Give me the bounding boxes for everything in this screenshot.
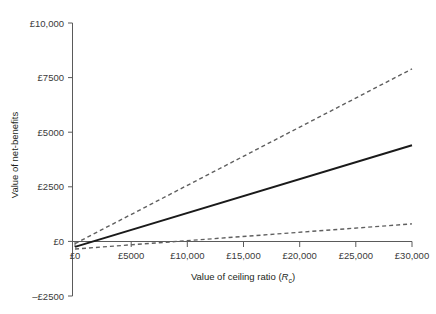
figure-caption-strip [0, 305, 436, 314]
figure-container: £10,000 £7500 £5000 £2500 £0 –£2500 £0 £… [0, 0, 436, 314]
y-tick-label-10000: £10,000 [30, 18, 64, 29]
x-tick-label-30000: £30,000 [395, 250, 429, 261]
x-tick-label-0: £0 [70, 250, 81, 261]
x-tick-label-25000: £25,000 [339, 250, 373, 261]
x-tick-label-10000: £10,000 [170, 250, 204, 261]
x-tick-label-5000: £5000 [118, 250, 144, 261]
series-upper-confidence-limit [75, 69, 412, 244]
x-axis-title-close: ) [292, 271, 295, 282]
x-tick-label-20000: £20,000 [283, 250, 317, 261]
x-axis-ticks [75, 242, 412, 248]
y-axis-title: Value of net-benefits [9, 112, 20, 199]
y-tick-label-0: £0 [53, 236, 64, 247]
x-axis-title: Value of ceiling ratio (Rc) [191, 271, 295, 284]
x-axis-title-main: Value of ceiling ratio ( [191, 271, 282, 282]
series-expected-net-benefit [75, 145, 412, 247]
y-tick-label-neg2500: –£2500 [32, 291, 64, 302]
x-tick-label-15000: £15,000 [226, 250, 260, 261]
y-tick-label-5000: £5000 [38, 127, 64, 138]
y-tick-label-7500: £7500 [38, 72, 64, 83]
y-tick-label-2500: £2500 [38, 181, 64, 192]
net-benefit-chart: £10,000 £7500 £5000 £2500 £0 –£2500 £0 £… [0, 0, 436, 314]
